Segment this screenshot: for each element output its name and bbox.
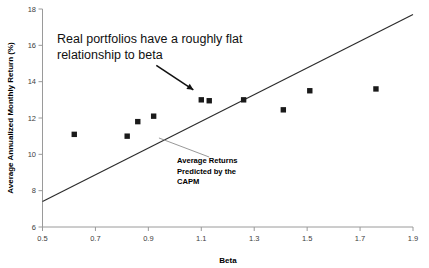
y-tick-label: 8: [32, 186, 36, 195]
y-axis-title: Average Annualized Monthly Return (%): [6, 42, 15, 194]
annotation-capm-line-2: Predicted by the: [177, 167, 236, 176]
y-tick-label: 16: [28, 41, 36, 50]
beta-vs-return-scatter-chart: 681012141618 0.50.70.91.11.31.51.71.9 Av…: [0, 0, 429, 268]
x-tick-label: 1.3: [249, 234, 259, 243]
x-tick-label: 0.7: [90, 234, 100, 243]
x-tick-label: 0.5: [37, 234, 47, 243]
data-point-marker: [307, 88, 312, 93]
data-point-marker: [207, 98, 212, 103]
data-point-marker: [135, 119, 140, 124]
data-point-marker: [241, 97, 246, 102]
annotation-flat-line-1: Real portfolios have a roughly flat: [57, 32, 243, 46]
annotation-flat-line-2: relationship to beta: [57, 48, 163, 62]
chart-container: 681012141618 0.50.70.91.11.31.51.71.9 Av…: [0, 0, 429, 268]
x-tick-label: 1.9: [408, 234, 418, 243]
y-tick-label: 18: [28, 5, 36, 14]
x-tick-label: 1.7: [355, 234, 365, 243]
y-tick-label: 12: [28, 114, 36, 123]
data-point-marker: [281, 107, 286, 112]
data-point-marker: [373, 86, 378, 91]
y-tick-label: 14: [28, 77, 36, 86]
y-tick-label: 10: [28, 150, 36, 159]
y-tick-label: 6: [32, 223, 36, 232]
data-point-marker: [151, 113, 156, 118]
data-point-marker: [124, 133, 129, 138]
x-axis-title: Beta: [219, 256, 237, 265]
data-point-marker: [72, 132, 77, 137]
annotation-capm-line-1: Average Returns: [177, 156, 238, 165]
annotation-capm-line-3: CAPM: [177, 177, 199, 186]
x-tick-label: 0.9: [143, 234, 153, 243]
x-tick-label: 1.1: [196, 234, 206, 243]
x-tick-label: 1.5: [302, 234, 312, 243]
data-point-marker: [199, 97, 204, 102]
